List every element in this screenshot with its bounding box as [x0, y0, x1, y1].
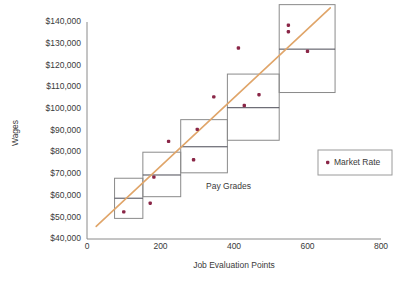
x-tick-label: 800 — [374, 241, 388, 251]
y-tick-label: $140,000 — [46, 16, 82, 26]
x-axis-title: Job Evaluation Points — [193, 260, 275, 270]
y-tick-label: $100,000 — [46, 103, 82, 113]
market-rate-point — [212, 95, 215, 98]
x-tick-label: 0 — [85, 241, 90, 251]
market-rate-point — [196, 128, 199, 131]
x-tick-label: 400 — [227, 241, 241, 251]
y-axis-title: Wages — [10, 120, 20, 146]
market-rate-point — [167, 140, 170, 143]
pay-grade-box — [181, 120, 228, 173]
y-axis-tick-labels: $40,000$50,000$60,000$70,000$80,000$90,0… — [46, 16, 82, 243]
y-tick-label: $40,000 — [50, 233, 81, 243]
market-rate-point — [122, 210, 125, 213]
market-rate-point — [152, 175, 155, 178]
market-rate-point — [237, 46, 240, 49]
market-trend-line — [96, 8, 330, 227]
market-rate-point — [257, 93, 260, 96]
legend: Market Rate — [318, 150, 392, 175]
legend-marker-market-rate — [326, 161, 329, 164]
pay-grade-box — [227, 74, 279, 140]
chart-canvas: $40,000$50,000$60,000$70,000$80,000$90,0… — [0, 0, 415, 282]
x-tick-label: 200 — [153, 241, 167, 251]
trend-line-group — [96, 8, 330, 227]
x-tick-label: 600 — [300, 241, 314, 251]
market-rate-point — [306, 50, 309, 53]
y-tick-label: $130,000 — [46, 38, 82, 48]
y-tick-label: $60,000 — [50, 190, 81, 200]
y-tick-label: $50,000 — [50, 212, 81, 222]
market-rate-point — [192, 158, 195, 161]
x-axis-tick-labels: 0200400600800 — [85, 241, 389, 251]
y-tick-label: $120,000 — [46, 60, 82, 70]
pay-structure-chart: $40,000$50,000$60,000$70,000$80,000$90,0… — [0, 0, 415, 282]
y-tick-label: $80,000 — [50, 146, 81, 156]
market-rate-point — [243, 104, 246, 107]
legend-label-market-rate: Market Rate — [334, 157, 381, 167]
y-tick-label: $70,000 — [50, 168, 81, 178]
pay-grades-annotation: Pay Grades — [206, 181, 251, 191]
pay-grade-box — [143, 152, 181, 196]
y-tick-label: $90,000 — [50, 125, 81, 135]
market-rate-point — [287, 30, 290, 33]
y-tick-label: $110,000 — [46, 81, 81, 91]
market-rate-point — [149, 201, 152, 204]
pay-grades-label: Pay Grades — [206, 181, 251, 191]
market-rate-point — [287, 24, 290, 27]
